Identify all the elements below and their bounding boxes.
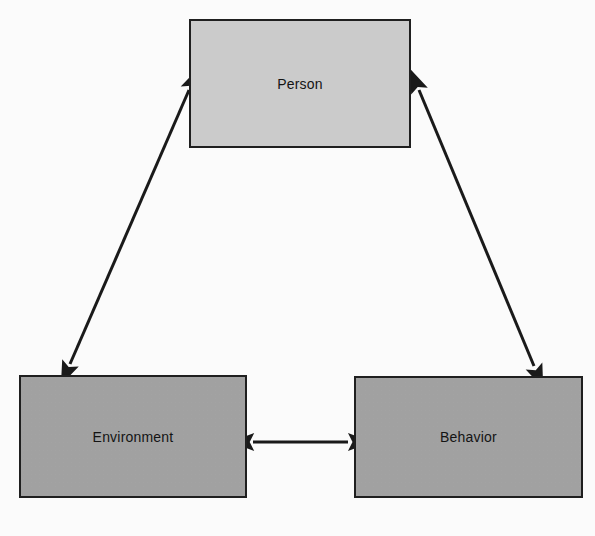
node-environment-label: Environment	[93, 429, 174, 445]
edge-person-environment	[70, 90, 189, 364]
edge-person-behavior	[419, 90, 534, 366]
node-behavior: Behavior	[354, 376, 583, 498]
node-environment: Environment	[19, 375, 247, 498]
node-person-label: Person	[277, 76, 323, 92]
node-person: Person	[189, 19, 411, 148]
node-behavior-label: Behavior	[440, 429, 497, 445]
figure-canvas: Person Environment Behavior	[0, 0, 595, 536]
